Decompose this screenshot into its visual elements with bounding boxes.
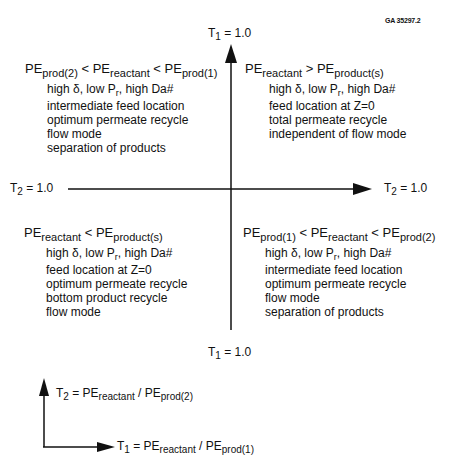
note-line: optimum permeate recycle <box>46 277 187 291</box>
axis-label-t2-left: T2 = 1.0 <box>10 181 53 195</box>
legend-right-arrow-icon <box>97 442 115 452</box>
quadrant-notes: high δ, low Pr, high Da# feed location a… <box>269 82 406 141</box>
legend-up-arrow-icon <box>39 378 49 396</box>
axis-label-t1-top: T1 = 1.0 <box>208 26 251 40</box>
quadrant-condition: PEreactant < PEproduct(s) <box>24 225 187 241</box>
quadrant-notes: high δ, low Pr, high Da# intermediate fe… <box>47 82 217 155</box>
note-line: independent of flow mode <box>269 127 406 141</box>
quadrant-condition: PEreactant > PEproduct(s) <box>245 61 406 77</box>
quadrant-condition: PEprod(2) < PEreactant < PEprod(1) <box>25 61 217 77</box>
note-line: feed location at Z=0 <box>46 263 187 277</box>
note-line: flow mode <box>47 127 217 141</box>
legend-t1-definition: T1 = PEreactant / PEprod(1) <box>117 439 254 453</box>
note-line: intermediate feed location <box>265 263 435 277</box>
quadrant-condition: PEprod(1) < PEreactant < PEprod(2) <box>243 225 435 241</box>
quadrant-notes: high δ, low Pr, high Da# feed location a… <box>46 246 187 319</box>
params-line: high δ, low Pr, high Da# <box>47 82 217 96</box>
note-line: separation of products <box>265 305 435 319</box>
params-line: high δ, low Pr, high Da# <box>269 82 406 96</box>
note-line: intermediate feed location <box>47 99 217 113</box>
params-line: high δ, low Pr, high Da# <box>46 246 187 260</box>
quadrant-top-right: PEreactant > PEproduct(s) high δ, low Pr… <box>245 61 406 141</box>
note-line: total permeate recycle <box>269 113 406 127</box>
quadrant-bottom-right: PEprod(1) < PEreactant < PEprod(2) high … <box>243 225 435 319</box>
axis-label-t2-right: T2 = 1.0 <box>384 181 427 195</box>
note-line: optimum permeate recycle <box>47 113 217 127</box>
vertical-axis-arrowhead-icon <box>225 44 237 63</box>
figure-id: GA 35297.2 <box>385 17 421 24</box>
note-line: separation of products <box>47 141 217 155</box>
note-line: optimum permeate recycle <box>265 277 435 291</box>
quadrant-notes: high δ, low Pr, high Da# intermediate fe… <box>265 246 435 319</box>
horizontal-axis-arrowhead-icon <box>353 183 372 195</box>
quadrant-top-left: PEprod(2) < PEreactant < PEprod(1) high … <box>25 61 217 155</box>
quadrant-bottom-left: PEreactant < PEproduct(s) high δ, low Pr… <box>24 225 187 319</box>
note-line: feed location at Z=0 <box>269 99 406 113</box>
note-line: flow mode <box>265 291 435 305</box>
legend-t2-definition: T2 = PEreactant / PEprod(2) <box>56 386 193 400</box>
axis-label-t1-bottom: T1 = 1.0 <box>208 345 251 359</box>
note-line: flow mode <box>46 305 187 319</box>
note-line: bottom product recycle <box>46 291 187 305</box>
params-line: high δ, low Pr, high Da# <box>265 246 435 260</box>
